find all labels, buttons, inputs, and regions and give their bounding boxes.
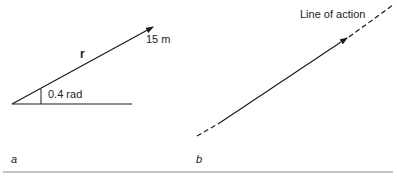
line-of-action-label: Line of action bbox=[300, 8, 365, 20]
caption-b: b bbox=[196, 153, 202, 165]
panel-a: 0.4 rad r 15 m a bbox=[11, 27, 170, 165]
angle-label: 0.4 rad bbox=[48, 88, 82, 100]
caption-a: a bbox=[11, 153, 17, 165]
panel-b: Line of action b bbox=[196, 5, 393, 165]
force-vector-arrow bbox=[218, 38, 347, 124]
vector-r-arrow bbox=[12, 27, 153, 104]
vector-diagram: 0.4 rad r 15 m a Line of action b bbox=[0, 0, 397, 177]
line-of-action-dashed-lower bbox=[197, 124, 218, 136]
vector-label: r bbox=[80, 47, 85, 61]
magnitude-label: 15 m bbox=[146, 33, 170, 45]
